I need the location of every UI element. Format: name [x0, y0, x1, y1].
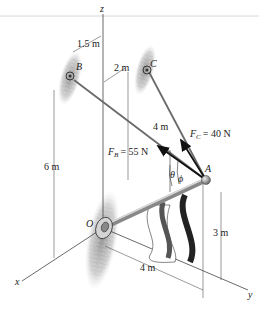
- dim-2m: 2 m: [114, 62, 130, 73]
- angle-phi-label: ϕ: [178, 173, 183, 184]
- wall-C: [130, 43, 161, 98]
- force-FC-label: FC= 40 N: [189, 128, 231, 141]
- point-A-label: A: [204, 163, 212, 174]
- point-B-label: B: [76, 61, 82, 72]
- x-axis-label: x: [14, 276, 20, 287]
- y-axis-label: y: [247, 289, 253, 300]
- force-FB-label: FB= 55 N: [107, 146, 148, 159]
- angle-theta-label: θ: [170, 169, 175, 180]
- point-O-label: O: [86, 218, 93, 229]
- point-C-label: C: [150, 58, 157, 69]
- dim-1-5m: 1.5 m: [77, 38, 100, 49]
- dim-4m-y: 4 m: [140, 262, 156, 273]
- dim-3m: 3 m: [213, 227, 229, 238]
- statics-diagram: z x y 1.5 m 2 m 6 m 4 m 3 m 4 m B C: [0, 0, 259, 314]
- z-axis-label: z: [99, 3, 104, 14]
- dim-6m: 6 m: [44, 161, 60, 172]
- dim-4m-vertical: 4 m: [153, 121, 169, 132]
- point-A-ball: [202, 176, 211, 185]
- wall-O: [79, 188, 126, 292]
- force-FC-arrow: [181, 140, 206, 180]
- wall-B: [53, 48, 87, 107]
